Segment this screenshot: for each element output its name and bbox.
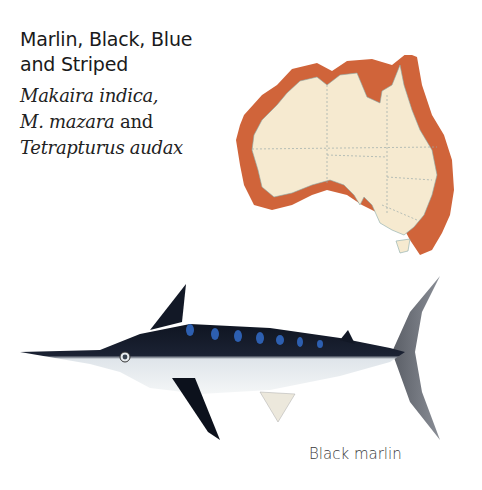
- tasmania: [396, 239, 410, 253]
- species-heading: Marlin, Black, Blue and Striped: [20, 27, 192, 77]
- scientific-names: Makaira indica, M. mazara and Tetrapturu…: [20, 83, 183, 161]
- marlin-fish-illustration-icon: [10, 272, 460, 452]
- sci-name-1: Makaira indica,: [20, 85, 158, 106]
- anal-fin: [260, 392, 295, 422]
- australia-distribution-map-icon: [232, 55, 454, 260]
- dorsal-fin: [150, 284, 186, 330]
- heading-line-1: Marlin, Black, Blue: [20, 27, 192, 52]
- heading-line-2: and Striped: [20, 52, 192, 77]
- sci-conjunction: and: [115, 111, 153, 132]
- illustration-caption: Black marlin: [309, 445, 402, 463]
- sci-name-3: Tetrapturus audax: [20, 137, 183, 158]
- tail-fin: [392, 276, 440, 440]
- sci-name-2: M. mazara: [20, 111, 115, 132]
